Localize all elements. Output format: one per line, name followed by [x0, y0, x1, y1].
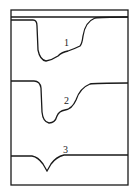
curve-1 [11, 17, 128, 61]
curve-3 [11, 155, 128, 171]
curve-3-label: 3 [63, 144, 68, 155]
curve-2 [11, 81, 128, 123]
frame [11, 10, 128, 185]
curve-2-label: 2 [64, 95, 69, 106]
curve-1-label: 1 [64, 37, 69, 48]
diagram-canvas: 1 2 3 [0, 0, 138, 196]
